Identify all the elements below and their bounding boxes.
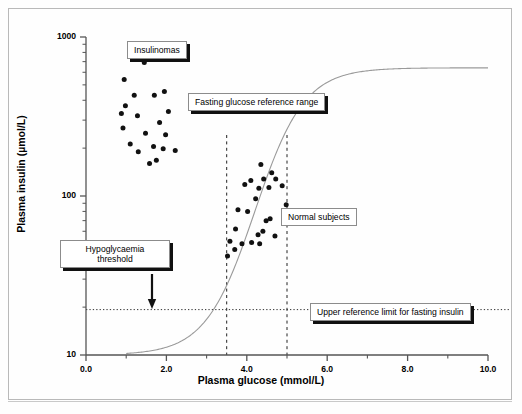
data-point-normal-subjects (253, 196, 258, 201)
data-point-normal-subjects (245, 209, 250, 214)
data-point-normal-subjects (227, 239, 232, 244)
x-tick-label: 10.0 (464, 364, 512, 374)
y-tick-label: 10 (30, 349, 76, 359)
annotation-upper-reference-limit: Upper reference limit for fasting insuli… (310, 303, 471, 321)
data-point-insulinomas (142, 60, 147, 65)
y-axis-title: Plasma insulin (µmol/L) (15, 109, 27, 239)
data-point-insulinomas (123, 103, 128, 108)
y-tick-label: 1000 (30, 31, 76, 41)
data-point-normal-subjects (261, 176, 266, 181)
data-point-insulinomas (152, 93, 157, 98)
data-point-insulinomas (166, 109, 171, 114)
data-point-normal-subjects (233, 227, 238, 232)
data-point-normal-subjects (239, 241, 244, 246)
data-point-normal-subjects (272, 234, 277, 239)
data-point-normal-subjects (249, 240, 254, 245)
data-point-insulinomas (135, 113, 140, 118)
data-point-normal-subjects (232, 247, 237, 252)
data-point-normal-subjects (257, 241, 262, 246)
x-tick-label: 6.0 (303, 364, 351, 374)
chart-page: Plasma glucose (mmol/L) Plasma insulin (… (0, 0, 522, 414)
data-point-normal-subjects (273, 176, 278, 181)
y-tick-label: 100 (30, 190, 76, 200)
data-point-insulinomas (173, 148, 178, 153)
data-point-insulinomas (154, 158, 159, 163)
data-point-insulinomas (151, 144, 156, 149)
data-point-normal-subjects (256, 186, 261, 191)
x-axis-title: Plasma glucose (mmol/L) (0, 374, 522, 386)
data-point-normal-subjects (242, 182, 247, 187)
scatter-plot-canvas (0, 0, 522, 414)
x-tick-label: 2.0 (142, 364, 190, 374)
annotation-insulinomas: Insulinomas (127, 41, 187, 59)
data-point-insulinomas (136, 149, 141, 154)
data-point-insulinomas (162, 89, 167, 94)
data-point-insulinomas (122, 77, 127, 82)
annotation-fasting-glucose-reference-range: Fasting glucose reference range (188, 93, 325, 111)
x-tick-label: 4.0 (223, 364, 271, 374)
data-point-normal-subjects (260, 229, 265, 234)
annotation-hypoglycaemia-line-1: Hypoglycaemia (67, 244, 163, 255)
data-point-insulinomas (132, 93, 137, 98)
data-point-insulinomas (119, 111, 124, 116)
data-point-normal-subjects (266, 185, 271, 190)
data-point-normal-subjects (256, 232, 261, 237)
annotation-hypoglycaemia-threshold: Hypoglycaemia threshold (60, 240, 170, 268)
data-point-normal-subjects (280, 183, 285, 188)
data-point-normal-subjects (248, 178, 253, 183)
data-point-normal-subjects (225, 253, 230, 258)
annotation-normal-subjects: Normal subjects (281, 208, 357, 226)
data-point-normal-subjects (258, 162, 263, 167)
data-point-insulinomas (128, 142, 133, 147)
data-point-insulinomas (163, 132, 168, 137)
data-point-insulinomas (161, 146, 166, 151)
data-point-insulinomas (147, 161, 152, 166)
data-point-normal-subjects (264, 218, 269, 223)
hypoglycaemia-arrow-head (148, 299, 156, 309)
data-point-insulinomas (120, 125, 125, 130)
data-point-insulinomas (157, 120, 162, 125)
x-tick-label: 0.0 (62, 364, 110, 374)
x-tick-label: 8.0 (384, 364, 432, 374)
data-point-insulinomas (143, 131, 148, 136)
data-point-normal-subjects (269, 170, 274, 175)
annotation-hypoglycaemia-line-2: threshold (67, 254, 163, 265)
data-point-normal-subjects (284, 202, 289, 207)
data-point-normal-subjects (235, 207, 240, 212)
